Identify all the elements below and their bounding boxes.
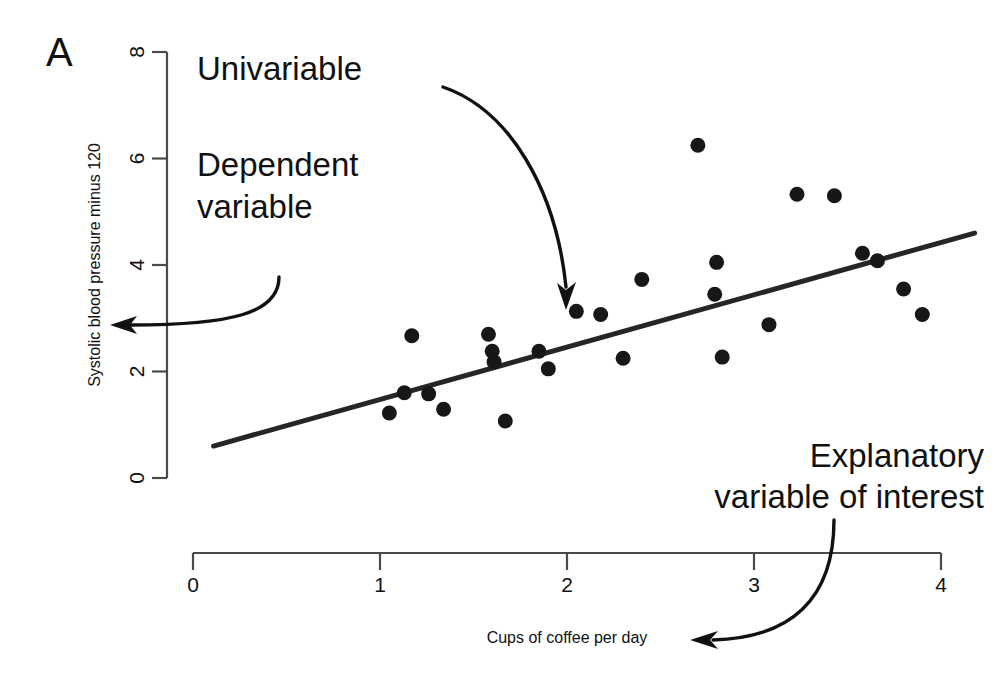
annotation-explanatory-variable-line1: Explanatory	[810, 437, 985, 474]
annotation-univariable-label: Univariable	[197, 50, 362, 87]
annotation-dependent-variable-line2: variable	[197, 188, 313, 225]
y-axis-title: Systolic blood pressure minus 120	[86, 143, 103, 387]
data-point	[707, 287, 722, 302]
annotation-dependent-variable: Dependent variable	[110, 146, 358, 334]
data-point	[827, 188, 842, 203]
annotation-univariable-arrow	[443, 87, 566, 287]
data-point	[915, 307, 930, 322]
annotation-dependent-variable-line1: Dependent	[197, 146, 358, 183]
data-point	[634, 272, 649, 287]
annotation-dependent-variable-arrow	[131, 277, 279, 325]
data-point	[709, 255, 724, 270]
y-axis-group: 8 6 4 2 0 Systolic blood pressure minus …	[86, 46, 167, 484]
y-tick-label-0: 0	[125, 472, 148, 484]
data-point	[397, 385, 412, 400]
data-point	[436, 402, 451, 417]
scatter-plot-canvas: 8 6 4 2 0 Systolic blood pressure minus …	[0, 0, 1008, 688]
data-point	[481, 327, 496, 342]
data-point	[855, 246, 870, 261]
data-point	[487, 354, 502, 369]
data-point	[421, 386, 436, 401]
x-tick-label-4: 4	[935, 573, 947, 596]
x-tick-label-1: 1	[374, 573, 386, 596]
panel-label: A	[46, 30, 73, 74]
data-point	[896, 281, 911, 296]
data-point	[404, 328, 419, 343]
data-point	[715, 350, 730, 365]
regression-line	[214, 233, 975, 446]
y-tick-label-2: 2	[125, 366, 148, 378]
y-tick-label-4: 4	[125, 259, 148, 271]
y-tick-label-6: 6	[125, 153, 148, 165]
scatter-points-group	[382, 138, 930, 429]
x-axis-title: Cups of coffee per day	[487, 629, 648, 646]
data-point	[790, 187, 805, 202]
annotation-explanatory-variable: Explanatory variable of interest	[690, 437, 984, 649]
data-point	[541, 361, 556, 376]
annotation-explanatory-variable-arrow	[713, 520, 834, 640]
data-point	[593, 307, 608, 322]
x-tick-label-2: 2	[561, 573, 573, 596]
data-point	[761, 317, 776, 332]
data-point	[498, 414, 513, 429]
figure-panel-a: 8 6 4 2 0 Systolic blood pressure minus …	[0, 0, 1008, 688]
data-point	[569, 304, 584, 319]
x-tick-label-0: 0	[187, 573, 199, 596]
y-tick-label-8: 8	[125, 46, 148, 58]
data-point	[531, 344, 546, 359]
data-point	[690, 138, 705, 153]
annotation-explanatory-variable-line2: variable of interest	[714, 478, 984, 515]
data-point	[870, 253, 885, 268]
x-tick-label-3: 3	[748, 573, 760, 596]
x-axis-group: 0 1 2 3 4 Cups of coffee per day	[187, 553, 947, 646]
data-point	[382, 406, 397, 421]
data-point	[616, 351, 631, 366]
